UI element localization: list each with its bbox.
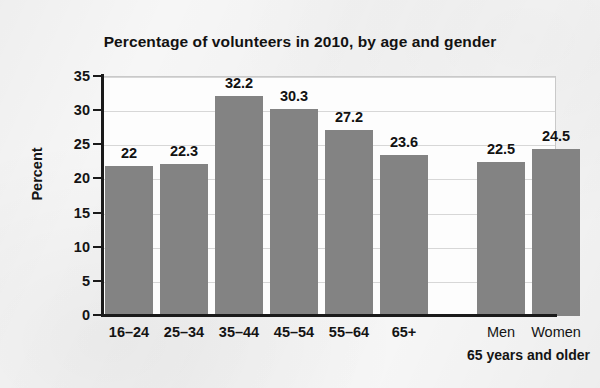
y-axis-tick-label: 20 xyxy=(56,170,90,186)
plot-area: 2222.332.230.327.223.622.524.5 xyxy=(103,76,556,316)
bar xyxy=(325,130,373,316)
bar-value-label: 30.3 xyxy=(258,88,330,104)
bar-value-label: 27.2 xyxy=(313,109,385,125)
bar-value-label: 22.3 xyxy=(148,143,220,159)
bar-value-label: 23.6 xyxy=(368,134,440,150)
bar xyxy=(270,109,318,316)
y-axis-tick xyxy=(93,314,102,316)
gridline xyxy=(103,77,555,78)
y-axis-tick-label: 5 xyxy=(56,273,90,289)
bar xyxy=(477,162,525,316)
bar-value-label: 24.5 xyxy=(520,128,592,144)
y-axis-tick-label: 10 xyxy=(56,239,90,255)
y-axis-title: Percent xyxy=(29,129,45,219)
group-caption: 65 years and older xyxy=(437,347,600,363)
bar xyxy=(215,96,263,316)
y-axis-tick xyxy=(93,109,102,111)
y-axis-tick-label: 30 xyxy=(56,102,90,118)
y-axis-tick xyxy=(93,177,102,179)
bar xyxy=(532,149,580,316)
chart-title: Percentage of volunteers in 2010, by age… xyxy=(0,33,600,51)
bar-value-label: 22.5 xyxy=(465,141,537,157)
y-axis-tick-label: 25 xyxy=(56,136,90,152)
x-axis-tick-label: 65+ xyxy=(366,324,442,340)
y-axis-tick xyxy=(93,143,102,145)
bar xyxy=(160,164,208,316)
y-axis-tick-label: 15 xyxy=(56,205,90,221)
y-axis-tick xyxy=(93,212,102,214)
y-axis-tick-labels: 05101520253035 xyxy=(50,0,90,388)
bar xyxy=(105,166,153,316)
y-axis-tick-label: 35 xyxy=(56,68,90,84)
y-axis-tick xyxy=(93,280,102,282)
y-axis-tick xyxy=(93,246,102,248)
y-axis-tick-label: 0 xyxy=(56,307,90,323)
x-axis-tick-label: Women xyxy=(518,324,594,340)
bar xyxy=(380,155,428,316)
chart-figure: Percentage of volunteers in 2010, by age… xyxy=(0,0,600,388)
y-axis-tick xyxy=(93,75,102,77)
x-axis-line xyxy=(101,314,557,317)
